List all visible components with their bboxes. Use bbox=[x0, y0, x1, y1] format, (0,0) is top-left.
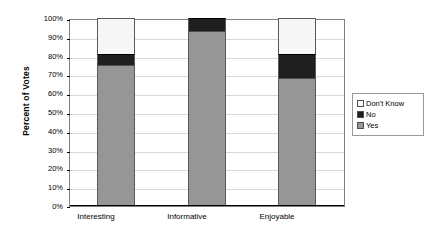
bar-interesting[interactable] bbox=[97, 18, 135, 206]
y-tick-label: 80% bbox=[48, 53, 63, 61]
x-axis-line bbox=[70, 205, 344, 206]
legend-label: No bbox=[366, 110, 376, 119]
y-tick-label: 70% bbox=[48, 71, 63, 79]
bar-segment-yes[interactable] bbox=[188, 31, 226, 206]
y-tick-label: 60% bbox=[48, 90, 63, 98]
legend-label: Yes bbox=[366, 121, 378, 130]
bar-segment-no[interactable] bbox=[97, 54, 135, 65]
bar-segment-yes[interactable] bbox=[97, 65, 135, 206]
y-tick-label: 40% bbox=[48, 128, 63, 136]
y-tick-label: 10% bbox=[48, 184, 63, 192]
legend-swatch-dont-know bbox=[357, 100, 364, 107]
legend-swatch-no bbox=[357, 111, 364, 118]
y-tick-label: 30% bbox=[48, 147, 63, 155]
chart-legend: Don't Know No Yes bbox=[352, 93, 424, 136]
x-tick-label-enjoyable: Enjoyable bbox=[229, 212, 325, 221]
y-tick-label: 0% bbox=[52, 203, 63, 211]
bar-segment-no[interactable] bbox=[188, 18, 226, 31]
bar-segment-yes[interactable] bbox=[278, 78, 316, 206]
bar-segment-no[interactable] bbox=[278, 54, 316, 78]
y-tick-label: 100% bbox=[44, 15, 63, 23]
bar-informative[interactable] bbox=[188, 18, 226, 206]
y-tick-label: 20% bbox=[48, 165, 63, 173]
y-tick-label: 90% bbox=[48, 34, 63, 42]
x-tick-label-interesting: Interesting bbox=[48, 212, 144, 221]
x-tick-label-informative: Informative bbox=[139, 212, 235, 221]
bar-enjoyable[interactable] bbox=[278, 18, 316, 206]
y-tick-label: 50% bbox=[48, 109, 63, 117]
bar-segment-dont-know[interactable] bbox=[97, 18, 135, 54]
bar-segment-dont-know[interactable] bbox=[278, 18, 316, 54]
legend-label: Don't Know bbox=[366, 99, 404, 108]
legend-item-no[interactable]: No bbox=[357, 109, 420, 120]
legend-swatch-yes bbox=[357, 122, 364, 129]
legend-item-yes[interactable]: Yes bbox=[357, 120, 420, 131]
legend-item-dont-know[interactable]: Don't Know bbox=[357, 98, 420, 109]
plot-area bbox=[69, 19, 345, 207]
y-axis-tick-labels: 100% 90% 80% 70% 60% 50% 40% 30% 20% 10%… bbox=[30, 19, 66, 207]
stacked-bar-chart: Percent of Votes 100% 90% 80% 70% 60% 50… bbox=[0, 0, 429, 240]
